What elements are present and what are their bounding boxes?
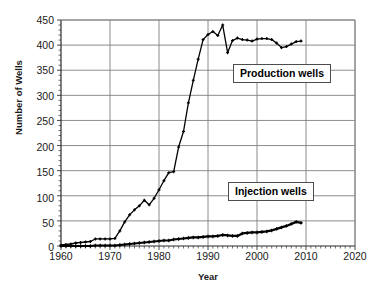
x-axis-title: Year — [61, 271, 355, 282]
gridlines — [61, 20, 355, 246]
y-tick-label: 150 — [8, 166, 54, 178]
y-tick-label: 400 — [8, 39, 54, 51]
y-tick-label: 100 — [8, 192, 54, 204]
y-tick-label: 250 — [8, 115, 54, 127]
x-tick-label: 1960 — [39, 250, 83, 262]
y-tick-label: 200 — [8, 141, 54, 153]
x-tick-label: 1990 — [186, 250, 230, 262]
y-tick-label: 300 — [8, 90, 54, 102]
chart-figure: Number of Wells 450 400 350 300 250 200 … — [0, 0, 382, 293]
y-tick-label: 450 — [8, 14, 54, 26]
legend-label-production-wells: Production wells — [233, 64, 331, 83]
legend-label-injection-wells: Injection wells — [228, 182, 314, 201]
axis-ticks — [57, 20, 355, 250]
x-tick-label: 2020 — [333, 250, 377, 262]
x-tick-label: 2010 — [284, 250, 328, 262]
y-tick-label: 50 — [8, 217, 54, 229]
x-tick-label: 1970 — [88, 250, 132, 262]
y-tick-label: 350 — [8, 64, 54, 76]
x-tick-label: 1980 — [137, 250, 181, 262]
data-series — [59, 24, 302, 248]
x-tick-label: 2000 — [235, 250, 279, 262]
